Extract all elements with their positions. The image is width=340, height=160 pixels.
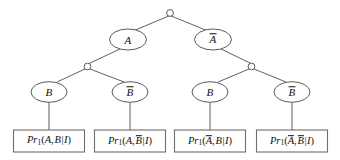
leaf-3-comma: , xyxy=(212,135,215,146)
leaf-2-comma: , xyxy=(132,135,135,146)
leaf-2-function: Pr xyxy=(108,135,119,146)
node-a-bar-label: A xyxy=(210,34,217,46)
probability-tree-figure: A A B B B B Pr1(A, B|I) Pr1(A, B|I) Pr1(… xyxy=(0,0,340,160)
leaf-1-comma: , xyxy=(51,134,54,145)
node-b-1-label: B xyxy=(46,87,53,98)
leaf-4-arg-a: A xyxy=(288,135,294,146)
node-b-2-text: B xyxy=(127,86,134,98)
leaf-3-close-paren: ) xyxy=(229,135,233,146)
leaf-2-close-paren: ) xyxy=(149,135,153,146)
leaf-4-label: Pr1(A, B|I) xyxy=(270,135,314,147)
node-a-text: A xyxy=(125,33,132,45)
leaf-1-label: Pr1(A, B|I) xyxy=(27,135,71,146)
junction-right-icon xyxy=(248,63,255,70)
leaf-3-function: Pr xyxy=(188,135,199,146)
node-a-bar-text: A xyxy=(210,34,217,46)
edge-a-to-junction-left xyxy=(88,48,122,64)
node-a-label: A xyxy=(125,34,132,45)
edge-root-to-a xyxy=(133,16,170,32)
leaf-4-arg-b: B xyxy=(298,135,304,146)
node-b-3-text: B xyxy=(207,86,214,98)
leaf-4-function: Pr xyxy=(270,135,281,146)
edge-junction-right-to-b3 xyxy=(218,69,249,82)
node-b-2-label: B xyxy=(127,86,134,98)
edge-abar-to-junction-right xyxy=(219,48,252,64)
leaf-1-close-paren: ) xyxy=(68,134,72,145)
leaf-1-function: Pr xyxy=(27,134,38,145)
edge-junction-left-to-b1 xyxy=(57,69,85,82)
node-b-3-label: B xyxy=(207,87,214,98)
leaf-3-label: Pr1(A, B|I) xyxy=(188,135,232,147)
leaf-2-arg-b: B xyxy=(136,135,142,146)
edge-root-to-abar xyxy=(170,16,208,32)
junction-left-icon xyxy=(84,63,91,70)
node-b-1-text: B xyxy=(46,86,53,98)
node-b-4-label: B xyxy=(289,86,296,98)
leaf-4-comma: , xyxy=(294,135,297,146)
edge-junction-right-to-b4 xyxy=(254,69,286,82)
node-b-4-text: B xyxy=(289,86,296,98)
leaf-3-arg-a: A xyxy=(206,135,212,146)
root-junction-icon xyxy=(167,10,174,17)
leaf-2-label: Pr1(A, B|I) xyxy=(108,135,152,147)
edge-junction-left-to-b2 xyxy=(90,69,124,82)
leaf-4-close-paren: ) xyxy=(311,135,315,146)
